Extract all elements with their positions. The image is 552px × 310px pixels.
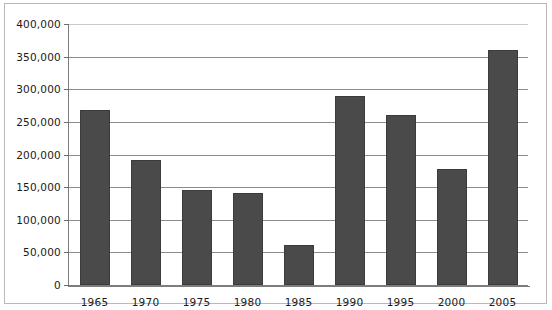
plot-area: 050,000100,000150,000200,000250,000300,0…	[68, 24, 528, 286]
y-axis-tick-label: 50,000	[23, 246, 61, 258]
y-axis-tick-label: 150,000	[16, 181, 61, 193]
bar	[182, 190, 212, 285]
bar	[335, 96, 365, 285]
y-axis-tick-label: 250,000	[16, 116, 61, 128]
bar	[131, 160, 161, 285]
x-axis-tick-label: 1995	[387, 296, 415, 308]
y-axis-tick-label: 400,000	[16, 18, 61, 30]
bar-group: 1990	[324, 24, 375, 285]
y-axis-tick-label: 0	[54, 279, 61, 291]
bar	[437, 169, 467, 285]
y-axis-tick-label: 300,000	[16, 83, 61, 95]
bar	[488, 50, 518, 285]
bar	[386, 115, 416, 285]
bar	[284, 245, 314, 285]
bar-group: 1970	[120, 24, 171, 285]
bar	[233, 193, 263, 285]
y-axis-tick-label: 200,000	[16, 149, 61, 161]
x-axis-tick-label: 2005	[489, 296, 517, 308]
bar-group: 1975	[171, 24, 222, 285]
bar	[80, 110, 110, 285]
bar-group: 2000	[426, 24, 477, 285]
chart-frame: 050,000100,000150,000200,000250,000300,0…	[4, 3, 547, 304]
x-axis-tick-label: 1980	[234, 296, 262, 308]
bar-group: 1995	[375, 24, 426, 285]
x-axis-baseline	[68, 286, 530, 287]
bar-group: 2005	[477, 24, 528, 285]
x-axis-tick-label: 1990	[336, 296, 364, 308]
x-axis-tick-label: 1985	[285, 296, 313, 308]
y-axis-tick-label: 350,000	[16, 51, 61, 63]
x-axis-tick-label: 1975	[183, 296, 211, 308]
bar-group: 1985	[273, 24, 324, 285]
x-axis-tick-label: 1965	[81, 296, 109, 308]
bar-group: 1965	[69, 24, 120, 285]
x-axis-tick-label: 1970	[132, 296, 160, 308]
bar-group: 1980	[222, 24, 273, 285]
y-axis-tick-label: 100,000	[16, 214, 61, 226]
x-axis-tick-label: 2000	[438, 296, 466, 308]
